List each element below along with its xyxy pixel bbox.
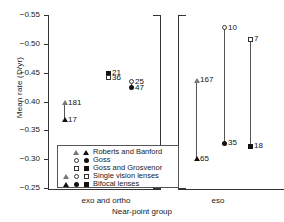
legend-symbol-square-open [71,166,81,171]
y-axis-line [48,15,49,189]
legend-symbol-circle-open [71,158,81,163]
legend-symbol-triangle-open [61,174,71,179]
x-axis-title: Near-point group [62,207,222,216]
y-axis-tick-label: −0.50 [10,39,40,48]
legend-symbol-square-filled [81,182,91,187]
legend-symbol-triangle-filled [61,182,71,187]
data-point-label: 167 [200,75,213,84]
data-point-marker [194,156,200,161]
y-axis-tick-label: −0.30 [10,154,40,163]
panel-left-top-cap [153,15,161,16]
data-point-marker [129,85,134,90]
legend-symbol-triangle-open [71,150,81,155]
data-point-label: 35 [228,138,237,147]
data-point-marker [222,25,227,30]
data-point-label: 47 [135,83,144,92]
x-group-label-eso: eso [188,196,248,205]
y-axis-tick-label: −0.40 [10,97,40,106]
x-axis-line-left-panel [48,189,161,190]
legend-row: Roberts and Banford [61,148,175,156]
legend-symbol-circle-filled [81,158,91,163]
data-point-label: 7 [254,34,258,43]
legend-symbol-circle-open [71,174,81,179]
legend-symbol-circle-filled [71,182,81,187]
data-point-label: 17 [68,115,77,124]
data-point-marker [248,144,253,149]
legend-symbol-square-open [81,174,91,179]
chart-legend: Roberts and BanfordGossGoss and Grosveno… [57,145,179,188]
x-group-label-exo-and-ortho: exo and ortho [56,196,156,205]
data-point-label: 10 [228,23,237,32]
legend-row: Bifocal lenses [61,180,175,188]
y-axis-tick-label: −0.25 [10,183,40,192]
data-point-marker [248,37,253,42]
panel-right-top-cap [178,15,186,16]
range-connector-line [224,28,225,143]
chart-root: Mean rate (D/yr) −0.55−0.50−0.45−0.40−0.… [0,0,284,222]
data-point-label: 18 [254,141,263,150]
legend-symbol-triangle-filled [81,150,91,155]
y-axis-tick-label: −0.55 [10,10,40,19]
range-connector-line [196,80,197,158]
data-point-marker [129,79,134,84]
data-point-marker [222,141,227,146]
range-connector-line [250,39,251,146]
data-point-marker [62,117,68,122]
legend-symbol-square-filled [81,166,91,171]
data-point-label: 65 [200,154,209,163]
data-point-label: 36 [112,73,121,82]
y-axis-tick-label: −0.45 [10,68,40,77]
legend-label: Bifocal lenses [93,180,139,188]
data-point-marker [106,75,111,80]
data-point-marker [62,100,68,105]
data-point-marker [194,78,200,83]
data-point-label: 181 [68,98,81,107]
y-axis-tick-label: −0.35 [10,125,40,134]
x-axis-line-right-panel [178,189,284,190]
